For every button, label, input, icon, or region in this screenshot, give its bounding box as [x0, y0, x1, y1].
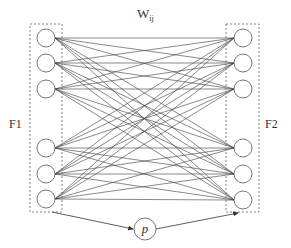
f2-node-2	[234, 54, 252, 72]
f1-node-4	[37, 139, 55, 157]
f1-node-5	[37, 165, 55, 183]
param-node-label: p	[141, 221, 149, 236]
f2-label: F2	[265, 117, 278, 131]
f2-node-4	[234, 139, 252, 157]
weight-connection	[55, 199, 234, 200]
f1-layer-box	[30, 24, 62, 212]
f2-node-5	[234, 165, 252, 183]
f1-node-1	[37, 29, 55, 47]
f1-label: F1	[9, 117, 22, 131]
f2-node-3	[234, 80, 252, 98]
weight-label: Wij	[137, 6, 154, 23]
arrow-f1-to-p	[52, 212, 133, 229]
f2-nodes	[234, 29, 252, 209]
f1-nodes	[37, 29, 55, 208]
f1-node-2	[37, 54, 55, 72]
arrow-p-to-f2	[156, 213, 238, 229]
f1-node-3	[37, 80, 55, 98]
weight-label-subscript: ij	[149, 14, 153, 23]
neural-network-diagram: p Wij F1 F2	[0, 0, 291, 248]
f2-node-6	[234, 191, 252, 209]
f2-node-1	[234, 29, 252, 47]
weight-connections	[55, 38, 234, 200]
f2-layer-box	[226, 24, 259, 212]
f1-node-6	[37, 190, 55, 208]
weight-label-main: W	[137, 6, 150, 21]
